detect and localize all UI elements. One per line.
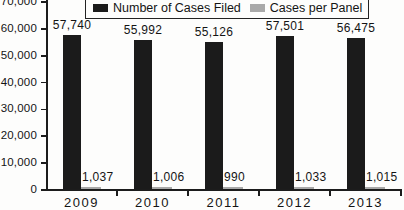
cases-filed-bar — [134, 40, 152, 190]
bar-group-2013: 56,475 1,015 2013 — [330, 0, 401, 190]
cases-bar-chart: Number of Cases Filed Cases per Panel 70… — [0, 0, 404, 210]
bar-group-2010: 55,992 1,006 2010 — [117, 0, 188, 190]
y-tick-label: 40,000 — [1, 76, 37, 88]
x-axis-category-label: 2011 — [188, 195, 259, 210]
cases-per-panel-value-label: 1,015 — [366, 170, 398, 184]
x-axis-tick — [116, 191, 118, 196]
x-axis-category-label: 2009 — [46, 195, 117, 210]
x-axis-line — [45, 189, 402, 191]
cases-filed-bar — [347, 38, 365, 190]
y-tick-label: 0 — [30, 183, 37, 195]
x-axis-category-label: 2013 — [330, 195, 401, 210]
bar-group-2012: 57,501 1,033 2012 — [259, 0, 330, 190]
x-axis-tick — [400, 191, 402, 196]
cases-per-panel-value-label: 990 — [224, 170, 245, 184]
x-axis-tick — [187, 191, 189, 196]
y-tick-label: 10,000 — [1, 156, 37, 168]
bar-group-2009: 57,740 1,037 2009 — [46, 0, 117, 190]
y-tick-label: 30,000 — [1, 102, 37, 114]
x-axis-tick — [258, 191, 260, 196]
cases-filed-bar — [276, 36, 294, 190]
cases-filed-bar — [63, 35, 81, 190]
cases-per-panel-value-label: 1,033 — [295, 170, 327, 184]
x-axis-tick — [329, 191, 331, 196]
y-tick-label: 50,000 — [1, 49, 37, 61]
cases-filed-value-label: 55,126 — [195, 25, 234, 39]
y-tick-label: 20,000 — [1, 129, 37, 141]
bar-group-2011: 55,126 990 2011 — [188, 0, 259, 190]
y-tick-label: 70,000 — [1, 0, 37, 7]
x-axis-category-label: 2012 — [259, 195, 330, 210]
cases-filed-value-label: 57,501 — [266, 19, 305, 33]
cases-filed-value-label: 56,475 — [337, 21, 376, 35]
cases-per-panel-value-label: 1,006 — [153, 170, 185, 184]
cases-filed-bar — [205, 42, 223, 190]
cases-per-panel-value-label: 1,037 — [82, 170, 114, 184]
y-tick-label: 60,000 — [1, 22, 37, 34]
cases-filed-value-label: 55,992 — [124, 23, 163, 37]
cases-filed-value-label: 57,740 — [53, 18, 92, 32]
x-axis-category-label: 2010 — [117, 195, 188, 210]
